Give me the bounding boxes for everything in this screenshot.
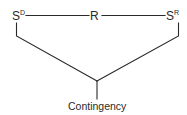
node-sr-superscript: R <box>174 9 179 16</box>
node-sd-superscript: D <box>20 9 25 16</box>
edge-sd-junction <box>17 23 98 81</box>
node-s-discriminative: SD <box>12 10 25 22</box>
node-response: R <box>90 10 99 22</box>
edge-sr-junction <box>97 23 179 81</box>
node-sd-base: S <box>12 9 20 23</box>
contingency-caption: Contingency <box>68 101 126 112</box>
node-sr-base: S <box>166 9 174 23</box>
node-s-reinforcing: SR <box>166 10 179 22</box>
contingency-diagram: SD R SR Contingency <box>0 0 187 115</box>
